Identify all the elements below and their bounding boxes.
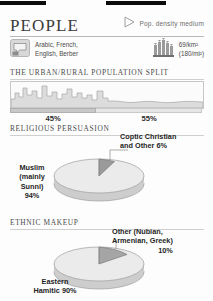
page-edge-bar-left <box>0 1 46 5</box>
religion-main-callout: Muslim (mainly Sunni) 94% <box>8 163 56 200</box>
section-heading-ethnic: ETHNIC MAKEUP <box>10 218 204 230</box>
urban-rural-silhouette <box>10 81 204 109</box>
ethnic-other-line-1: Other (Nubian, <box>112 227 173 236</box>
ethnic-main-line-1: Eastern <box>20 277 90 286</box>
religion-main-line-1: Muslim <box>8 163 56 172</box>
rural-percentage-label: 55% <box>96 114 202 123</box>
religion-pie-chart <box>44 140 154 214</box>
ethnic-main-callout: Eastern Hamitic 90% <box>20 277 90 296</box>
ethnic-other-line-2: Armenian, Greek) <box>112 236 173 245</box>
religion-main-line-4: 94% <box>8 191 56 200</box>
languages-fact: Arabic, French, English, Berber <box>10 38 78 61</box>
density-metric: 69/km² <box>179 41 204 50</box>
page-title: PEOPLE <box>10 17 79 34</box>
triangle-right-icon <box>124 14 135 32</box>
density-badge: Pop. density medium <box>124 14 205 34</box>
people-infographic-page: PEOPLE Pop. density medium Arabic, Frenc… <box>0 0 213 301</box>
religion-other-line-1: Coptic Christian <box>120 132 176 141</box>
ethnic-main-line-2: Hamitic 90% <box>20 286 90 295</box>
religion-other-line-2: and Other 6% <box>120 141 176 150</box>
split-bar-urban-segment <box>10 108 96 113</box>
split-bar-rural-segment <box>96 108 202 113</box>
density-label: Pop. density medium <box>140 20 205 27</box>
religion-other-callout: Coptic Christian and Other 6% <box>120 132 176 151</box>
religion-main-line-3: Sunni) <box>8 182 56 191</box>
languages-line-2: English, Berber <box>35 50 78 59</box>
urban-percentage-label: 45% <box>10 114 96 123</box>
languages-line-1: Arabic, French, <box>35 41 78 50</box>
city-buildings-icon <box>153 38 174 61</box>
density-imperial: (180/mi²) <box>179 50 204 59</box>
urban-rural-split-bar <box>10 108 202 113</box>
religion-main-line-2: (mainly <box>8 172 56 181</box>
speech-bubble-icon <box>10 39 30 61</box>
languages-text: Arabic, French, English, Berber <box>35 41 78 58</box>
section-heading-urban-rural: THE URBAN/RURAL POPULATION SPLIT <box>10 68 204 80</box>
density-fact: 69/km² (180/mi²) <box>153 38 204 61</box>
page-edge-bar-right <box>106 1 166 5</box>
ethnic-other-callout: Other (Nubian, Armenian, Greek) 10% <box>112 227 173 255</box>
ethnic-other-line-3: 10% <box>112 246 173 255</box>
page-header: PEOPLE Pop. density medium <box>10 14 204 37</box>
urban-rural-labels: 45% 55% <box>10 114 202 124</box>
density-text: 69/km² (180/mi²) <box>179 41 204 58</box>
facts-row: Arabic, French, English, Berber <box>10 38 204 61</box>
